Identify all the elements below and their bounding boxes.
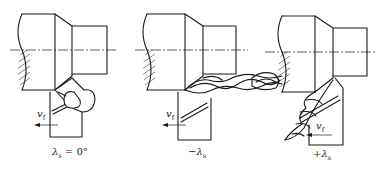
cutting-tool: [178, 92, 211, 140]
feed-label-positive: vf: [316, 120, 324, 134]
diagram-canvas: [0, 0, 381, 169]
panel-negative-inclination: [135, 14, 282, 140]
section-hatch: [10, 48, 30, 92]
feed-label-zero: vf: [37, 108, 45, 122]
caption-positive: +λs: [313, 148, 331, 162]
chip-twisted: [185, 74, 282, 93]
feed-label-negative: vf: [166, 108, 174, 122]
panel-zero-inclination: [10, 14, 118, 137]
caption-negative: −λs: [188, 146, 206, 160]
workpiece-body: [22, 14, 55, 90]
caption-zero: λs = 0°: [52, 146, 88, 160]
panel-positive-inclination: [252, 16, 376, 145]
